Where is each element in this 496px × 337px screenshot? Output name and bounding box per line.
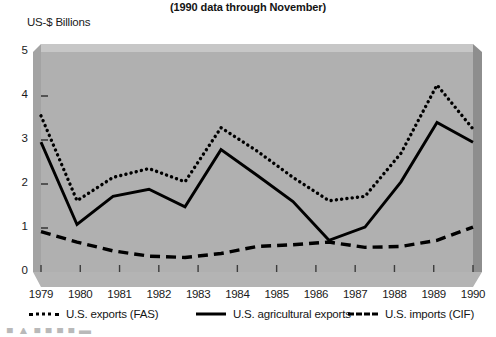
x-tick-label-1988: 1988 [373,288,415,300]
x-tick-label-1979: 1979 [20,288,62,300]
series-line-2 [41,227,473,257]
legend-entry-2[interactable]: U.S. imports (CIF) [348,307,474,321]
y-tick-label-5: 5 [6,44,28,56]
page-title: (1990 data through November) [0,1,496,13]
x-tick-label-1989: 1989 [413,288,455,300]
legend-label: U.S. agricultural exports [233,308,351,320]
x-tick-label-1986: 1986 [295,288,337,300]
legend-label: U.S. exports (FAS) [66,308,158,320]
y-tick-label-0: 0 [6,264,28,276]
y-axis-tick-labels: 012345 [0,44,28,287]
x-tick-label-1984: 1984 [216,288,258,300]
x-tick-label-1981: 1981 [99,288,141,300]
legend-entry-1[interactable]: U.S. agricultural exports [196,307,351,321]
y-tick-label-4: 4 [6,88,28,100]
y-tick-label-1: 1 [6,220,28,232]
legend-entry-0[interactable]: U.S. exports (FAS) [29,307,158,321]
page-bleed-row: ■ ▲ ■ ■ ■ ■ ▬ [0,328,496,337]
x-tick-label-1982: 1982 [138,288,180,300]
y-tick-label-2: 2 [6,176,28,188]
x-axis-tick-labels: 1979198019811982198319841985198619871988… [0,288,496,304]
x-tick-label-1980: 1980 [59,288,101,300]
series-line-0 [41,85,473,201]
x-tick-label-1990: 1990 [452,288,494,300]
x-tick-label-1983: 1983 [177,288,219,300]
chart-legend: U.S. exports (FAS)U.S. agricultural expo… [0,307,496,323]
chart-series-layer [33,44,482,287]
legend-solid-line-icon [196,308,226,320]
chart-plot-area [33,44,482,287]
x-tick-label-1985: 1985 [256,288,298,300]
data-series-paths [41,85,473,257]
legend-label: U.S. imports (CIF) [385,308,474,320]
legend-dotted-line-icon [29,308,59,320]
legend-dashed-line-icon [348,308,378,320]
y-axis-caption: US-$ Billions [27,16,90,28]
bleed-text: ■ ▲ ■ ■ ■ ■ ▬ [6,328,91,337]
y-tick-label-3: 3 [6,132,28,144]
x-tick-label-1987: 1987 [334,288,376,300]
